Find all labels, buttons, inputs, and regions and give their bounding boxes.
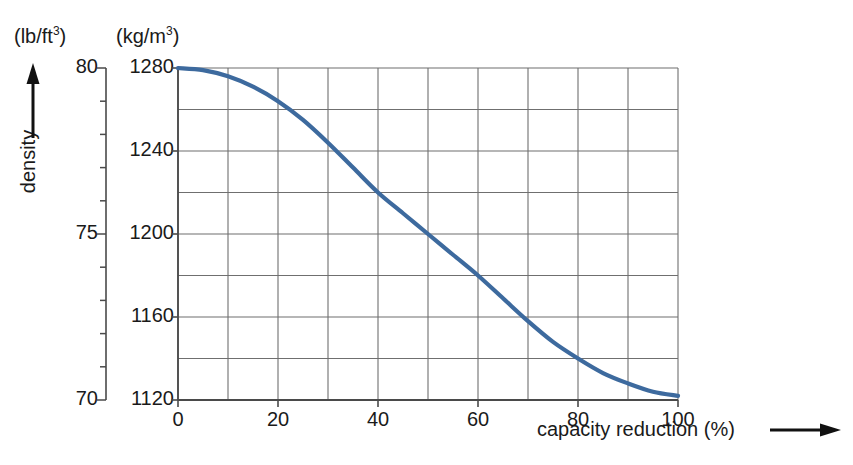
y-axis-arrow-head [27, 63, 40, 84]
imperial-axis [97, 68, 106, 400]
x-axis-arrow-head [820, 424, 841, 437]
density-capacity-reduction-chart: (lb/ft3) (kg/m3) density capacity reduct… [0, 0, 853, 465]
axis-lines [171, 68, 678, 407]
plot-canvas [0, 0, 853, 465]
axis-arrows [27, 63, 842, 437]
